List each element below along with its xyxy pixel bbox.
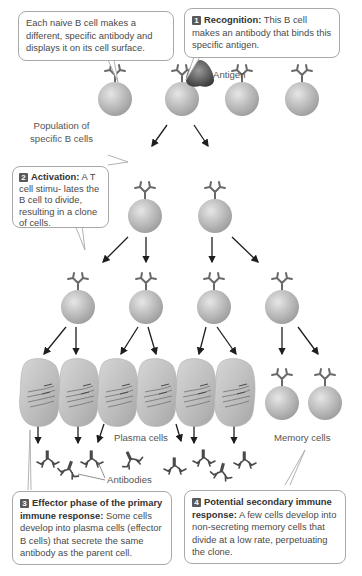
plasma-cell-1	[20, 359, 60, 427]
plasma-cell-2	[59, 359, 99, 427]
step-3-badge: 3	[20, 499, 29, 508]
callout-effector-phase: 3Effector phase of the primary immune re…	[12, 491, 172, 565]
memory-cell-2	[308, 369, 342, 420]
plasma-cell-5	[176, 359, 216, 427]
plasma-cell-3	[98, 359, 138, 427]
antibodies-label: Antibodies	[107, 474, 152, 487]
step-1-badge: 1	[192, 16, 201, 25]
callout-naive-b-cell: Each naive B cell makes a different, spe…	[18, 11, 174, 61]
activated-b-cell-2	[198, 182, 232, 233]
plasma-cell-4	[137, 359, 177, 427]
recognition-heading: Recognition:	[204, 14, 261, 25]
naive-b-cell-4	[285, 65, 319, 116]
population-label: Population of specific B cells	[24, 120, 99, 145]
antibodies-pointer	[78, 462, 105, 480]
population-label-line2: specific B cells	[24, 133, 99, 146]
activated-b-cell-1	[128, 182, 162, 233]
clone-b-cell-3	[197, 273, 231, 324]
memory-cells-label: Memory cells	[274, 432, 331, 445]
antigen-label: Antigen	[213, 69, 246, 82]
clone-b-cell-1	[61, 273, 95, 324]
clone-b-cell-4	[265, 273, 299, 324]
activation-heading: Activation:	[31, 171, 79, 182]
memory-cell-1	[265, 369, 299, 420]
plasma-cell-6	[215, 359, 255, 427]
callout-recognition: 1Recognition: This B cell makes an antib…	[184, 8, 340, 58]
callout-activation: 2Activation: A T cell stimu- lates the B…	[12, 166, 109, 228]
clone-b-cell-2	[129, 273, 163, 324]
step-4-badge: 4	[192, 498, 201, 507]
step-2-badge: 2	[19, 173, 28, 182]
population-label-line1: Population of	[24, 120, 99, 133]
callout-secondary-response: 4Potential secondary immune response: A …	[184, 490, 346, 564]
callout-naive-text: Each naive B cell makes a different, spe…	[26, 17, 152, 53]
plasma-cells-label: Plasma cells	[114, 432, 168, 445]
